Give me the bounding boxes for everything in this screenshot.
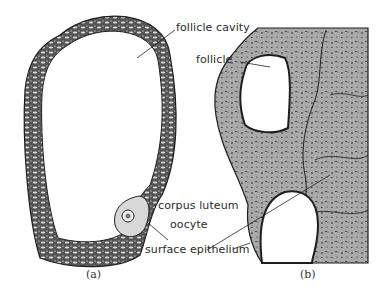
panel-b-corpus-luteum-drawing — [215, 28, 368, 263]
caption-panel-a: (a) — [86, 268, 101, 281]
label-corpus-luteum: corpus luteum — [158, 199, 239, 212]
caption-panel-b: (b) — [300, 268, 316, 281]
panel-a-follicle-drawing — [24, 16, 176, 267]
label-surface-epithelium: surface epithelium — [145, 243, 250, 256]
label-follicle-cavity: follicle cavity — [176, 21, 250, 34]
label-follicle: follicle — [196, 53, 232, 66]
label-oocyte: oocyte — [170, 218, 208, 231]
